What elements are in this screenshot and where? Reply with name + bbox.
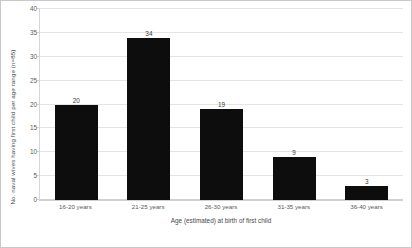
- y-tick-label-5: 5: [33, 172, 37, 179]
- bar-value-label: 9: [292, 149, 296, 156]
- y-tick-label-25: 25: [30, 76, 37, 83]
- y-tick-label-40: 40: [30, 5, 37, 12]
- chart-container: No. naval wives having first child per a…: [0, 0, 412, 248]
- y-tick-label-35: 35: [30, 28, 37, 35]
- plot-wrapper: 40 35 30 25 20 15: [31, 9, 403, 201]
- bar-slot: 3: [330, 9, 403, 200]
- y-tick-label-0: 0: [33, 196, 37, 203]
- bar-value-label: 20: [73, 97, 80, 104]
- bar-slot: 20: [40, 9, 113, 200]
- x-tick-label-36-40-years: 36-40 years: [330, 203, 403, 210]
- bar-26-30-years[interactable]: 19: [200, 109, 243, 200]
- y-tick-label-30: 30: [30, 52, 37, 59]
- bar-21-25-years[interactable]: 34: [127, 38, 170, 200]
- x-tick-label-31-35-years: 31-35 years: [257, 203, 330, 210]
- bar-value-label: 3: [365, 178, 369, 185]
- x-axis-category-labels: 16-20 years 21-25 years 26-30 years 31-3…: [39, 203, 403, 210]
- y-tick-label-20: 20: [30, 100, 37, 107]
- x-tick-label-16-20-years: 16-20 years: [39, 203, 112, 210]
- bar-slot: 19: [185, 9, 258, 200]
- bar-series: 20 34 19 9: [40, 9, 403, 200]
- bar-value-label: 19: [218, 101, 225, 108]
- y-axis-title: No. naval wives having first child per a…: [6, 17, 20, 237]
- x-axis-title: Age (estimated) at birth of first child: [39, 217, 403, 224]
- y-tick-label-10: 10: [30, 148, 37, 155]
- bar-36-40-years[interactable]: 3: [345, 186, 388, 200]
- bar-slot: 34: [113, 9, 186, 200]
- bar-31-35-years[interactable]: 9: [273, 157, 316, 200]
- bar-16-20-years[interactable]: 20: [55, 105, 98, 201]
- bar-value-label: 34: [145, 30, 152, 37]
- plot-area: 40 35 30 25 20 15: [39, 9, 403, 201]
- bar-slot: 9: [258, 9, 331, 200]
- y-tick-label-15: 15: [30, 124, 37, 131]
- x-tick-label-21-25-years: 21-25 years: [112, 203, 185, 210]
- x-tick-label-26-30-years: 26-30 years: [185, 203, 258, 210]
